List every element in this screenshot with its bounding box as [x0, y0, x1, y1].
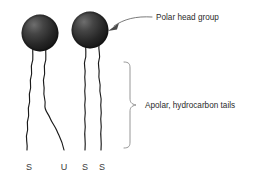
subunit-label-3: S — [82, 162, 88, 172]
phospholipid-diagram: Polar head group Apolar, hydrocarbon tai… — [0, 0, 260, 183]
head-arrow-icon — [108, 23, 119, 31]
subunit-label-4: S — [99, 162, 105, 172]
tails-brace-annotation — [124, 62, 136, 148]
apolar-tails-label: Apolar, hydrocarbon tails — [145, 101, 235, 110]
head-leader-line — [114, 17, 152, 26]
curly-brace-icon — [124, 62, 136, 148]
head-leader-annotation — [108, 17, 152, 31]
molecule-right — [72, 12, 109, 151]
subunit-label-2: U — [61, 162, 68, 172]
tail-left-outer — [26, 48, 33, 150]
molecule-left — [22, 15, 65, 151]
polar-head-left-rim — [22, 15, 59, 52]
subunit-label-group: S U S S — [26, 162, 105, 172]
diagram-canvas: Polar head group Apolar, hydrocarbon tai… — [0, 0, 260, 183]
tail-right-outer — [84, 45, 86, 150]
polar-head-right-rim — [72, 12, 109, 49]
polar-head-group-label: Polar head group — [156, 13, 219, 22]
tail-right-inner — [98, 45, 101, 150]
subunit-label-1: S — [26, 162, 32, 172]
tail-left-inner — [43, 48, 64, 150]
